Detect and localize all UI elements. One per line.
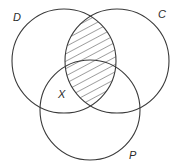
set-c-label: C	[158, 8, 166, 20]
venn-diagram: D C P X	[0, 0, 183, 166]
set-d-label: D	[13, 11, 21, 23]
region-x-label: X	[57, 88, 66, 100]
set-p-label: P	[129, 149, 137, 161]
